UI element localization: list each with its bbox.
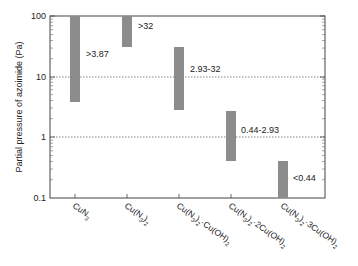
range-bar-cun3-2-2cuoh2 — [226, 111, 236, 161]
range-label: <0.44 — [293, 173, 316, 183]
category-label: Cu(N3)2 — [122, 200, 153, 227]
y-tick-label: 0.1 — [33, 193, 46, 203]
y-tick-label: 100 — [31, 11, 46, 21]
range-label: 0.44-2.93 — [241, 125, 279, 135]
category-label: CuN3 — [70, 200, 94, 222]
category-label: Cu(N3)2·Cu(OH)2 — [174, 200, 235, 247]
range-bar-cun3 — [70, 16, 80, 102]
range-label: 2.93-32 — [190, 64, 221, 74]
category-label: Cu(N3)2·3Cu(OH)2 — [278, 200, 342, 250]
range-bar-cun3-2-3cuoh2 — [278, 161, 288, 198]
y-tick-label: 1 — [41, 132, 46, 142]
range-label: >3.87 — [86, 49, 109, 59]
range-bar-cun3-2-cuoh2 — [174, 47, 184, 110]
x-ticks — [75, 194, 283, 198]
y-axis-label: Partial pressure of azoimide (Pa) — [14, 41, 24, 172]
range-label: >32 — [138, 21, 153, 31]
chart: 100 10 1 0.1 Partial pressure of azoimid… — [0, 0, 358, 266]
y-tick-label: 10 — [36, 72, 46, 82]
range-bar-cun3-2 — [122, 16, 132, 47]
y-minor-ticks — [50, 19, 325, 180]
y-major-ticks — [50, 16, 325, 137]
